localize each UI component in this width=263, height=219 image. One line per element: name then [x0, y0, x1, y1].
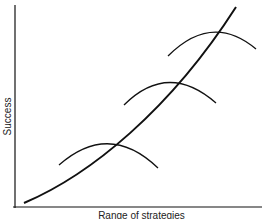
- strategy-arc-3: [168, 32, 256, 56]
- strategy-arc-1: [59, 144, 158, 168]
- y-axis-label: Success: [2, 92, 13, 142]
- diagram-canvas: [0, 0, 263, 219]
- main-success-curve: [24, 7, 236, 203]
- x-axis-label: Range of strategies: [0, 210, 263, 219]
